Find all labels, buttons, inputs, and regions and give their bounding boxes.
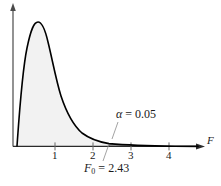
critical-value-annotation: F0 = 2.43 bbox=[84, 162, 129, 176]
x-tick-label-2: 2 bbox=[90, 150, 96, 161]
x-tick-label-4: 4 bbox=[166, 150, 172, 161]
alpha-leader-line bbox=[112, 122, 118, 139]
critical-value-number: 2.43 bbox=[108, 161, 129, 175]
x-tick-label-1: 1 bbox=[52, 150, 58, 161]
f-distribution-figure: 1 2 3 4 F α = 0.05 F0 = 2.43 bbox=[0, 0, 221, 186]
alpha-equals: = bbox=[122, 107, 135, 121]
x-axis-label: F bbox=[207, 135, 214, 146]
distribution-plot bbox=[0, 0, 221, 186]
y-axis-arrowhead bbox=[10, 3, 16, 11]
alpha-value: 0.05 bbox=[135, 107, 156, 121]
critical-value-equals: = bbox=[95, 161, 108, 175]
density-area-fill bbox=[17, 22, 198, 147]
x-tick-label-3: 3 bbox=[128, 150, 134, 161]
alpha-annotation: α = 0.05 bbox=[116, 108, 156, 120]
